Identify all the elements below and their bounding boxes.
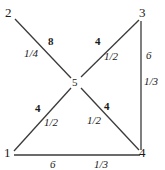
edge-fraction-2-5: 1/4	[24, 48, 38, 59]
edge-weight-2-5: 8	[48, 36, 54, 47]
node-label-1: 1	[4, 146, 11, 159]
edge-weight-1-5: 4	[35, 103, 41, 114]
edge-line-1-5	[14, 88, 71, 151]
node-label-4: 4	[139, 146, 146, 159]
node-label-5: 5	[72, 77, 78, 88]
edge-weight-5-4: 4	[104, 101, 110, 112]
edge-fraction-1-5: 1/2	[44, 117, 58, 128]
graph-diagram: 2 3 5 1 4 8 1/4 4 1/2 6 1/3 4 1/2 4 1/2 …	[0, 0, 165, 170]
edge-line-5-3	[81, 20, 139, 77]
edge-fraction-1-4: 1/3	[94, 159, 108, 170]
edge-weight-3-4: 6	[146, 50, 152, 61]
edge-fraction-5-4: 1/2	[87, 115, 101, 126]
edge-weight-5-3: 4	[95, 36, 101, 47]
edge-fraction-3-4: 1/3	[144, 76, 158, 87]
edge-fraction-5-3: 1/2	[104, 51, 118, 62]
edge-weight-1-4: 6	[50, 159, 56, 170]
node-label-3: 3	[139, 6, 146, 19]
node-label-2: 2	[5, 6, 12, 19]
